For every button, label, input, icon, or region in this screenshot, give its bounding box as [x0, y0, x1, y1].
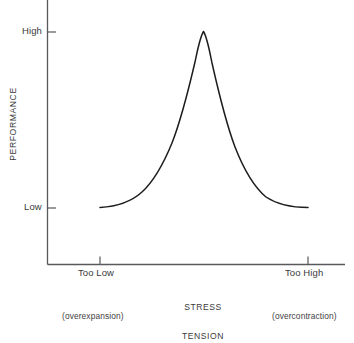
x-axis-title-line-1: STRESS [168, 303, 238, 313]
x-tick-label-too-low: Too Low [78, 268, 114, 279]
annotation-overexpansion: (overexpansion) [62, 312, 124, 321]
annotation-overcontraction: (overcontraction) [272, 312, 337, 321]
clipped-caption-row [0, 332, 354, 338]
y-tick-label-low: Low [24, 202, 42, 213]
x-tick-label-too-high: Too High [285, 268, 323, 279]
y-tick-label-high: High [22, 26, 42, 37]
y-axis-title-text: PERFORMANCE [8, 87, 18, 160]
y-axis-title: PERFORMANCE [6, 78, 20, 170]
